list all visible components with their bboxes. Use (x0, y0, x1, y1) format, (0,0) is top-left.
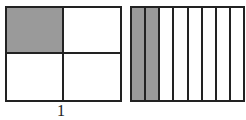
figure-label: 1 (57, 102, 65, 120)
column (231, 8, 243, 100)
shaded-column (146, 8, 160, 100)
column (160, 8, 174, 100)
column (203, 8, 217, 100)
left-grid (5, 6, 122, 102)
column (217, 8, 231, 100)
column (174, 8, 188, 100)
cell (7, 54, 64, 100)
shaded-cell (7, 8, 64, 54)
cell (64, 8, 120, 54)
cell (64, 54, 120, 100)
right-grid (130, 6, 245, 102)
column (189, 8, 203, 100)
shaded-column (132, 8, 146, 100)
